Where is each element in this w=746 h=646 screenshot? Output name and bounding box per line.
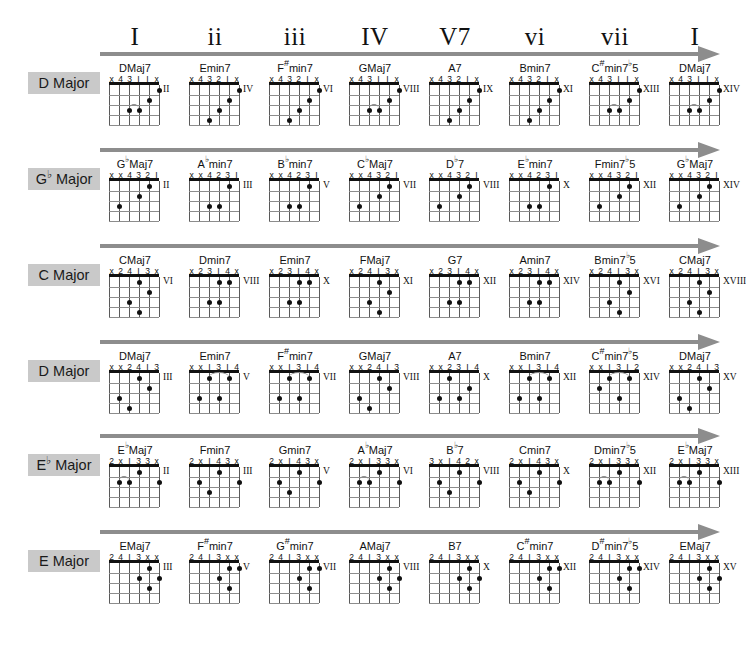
finger-dot	[547, 184, 552, 189]
chord-diagram[interactable]: F#min7xxI3I4VII	[255, 350, 335, 434]
nut-bar	[429, 370, 479, 373]
chord-diagram[interactable]: B♭73xI42xVIII	[415, 444, 495, 528]
fret-line	[589, 287, 639, 288]
chord-diagram[interactable]: Bmin7xxI3I4XII	[495, 350, 575, 434]
chord-diagram[interactable]: AMaj724I3xxVIII	[335, 540, 415, 624]
accidental-glyph: ♭	[454, 154, 458, 164]
chord-diagram[interactable]: DMaj7xx24I3III	[95, 350, 175, 434]
fret-line	[109, 297, 159, 298]
chord-diagram[interactable]: Emin7xxI3I4V	[175, 350, 255, 434]
chord-diagram[interactable]: Dmin7x23I4xVIII	[175, 254, 255, 338]
finger-dot	[707, 386, 712, 391]
fret-line	[349, 477, 399, 478]
chord-diagram[interactable]: A♭Maj72xI33xVI	[335, 444, 415, 528]
chord-diagram[interactable]: CMaj7x24I3xXVIII	[655, 254, 735, 338]
chord-diagram[interactable]: D♭7xx432IVIII	[415, 158, 495, 242]
finger-dot	[217, 396, 222, 401]
finger-dot	[447, 376, 452, 381]
finger-dot	[517, 396, 522, 401]
fret-line	[269, 477, 319, 478]
chord-diagram[interactable]: Dmin7♭52xI33xXII	[575, 444, 655, 528]
chord-diagram[interactable]: Fmin72xI43xIII	[175, 444, 255, 528]
chord-diagram[interactable]: GMaj7xx24I3VIII	[335, 350, 415, 434]
fret-line	[189, 201, 239, 202]
finger-dot	[557, 480, 562, 485]
chord-name: CMaj7	[655, 254, 735, 266]
fretboard-grid	[109, 277, 159, 317]
chord-diagram[interactable]: G7x23I4xXII	[415, 254, 495, 338]
fret-line	[349, 95, 399, 96]
chord-diagram[interactable]: G♭Maj7xx432III	[95, 158, 175, 242]
chord-diagram[interactable]: Gmin72xI43xV	[255, 444, 335, 528]
chord-diagram[interactable]: A7x432IxIX	[415, 62, 495, 146]
key-label: D Major	[28, 72, 100, 94]
string-line	[319, 467, 320, 507]
finger-dot	[717, 480, 722, 485]
chord-diagram[interactable]: DMaj7x43IIxXIV	[655, 62, 735, 146]
chord-diagram[interactable]: Cmin72xI43xX	[495, 444, 575, 528]
chord-diagram[interactable]: Bmin7♭5x24I3xXVI	[575, 254, 655, 338]
chord-diagram[interactable]: B♭min7xx423IV	[255, 158, 335, 242]
chord-diagram[interactable]: F#min7x432IxVI	[255, 62, 335, 146]
finger-dot	[137, 194, 142, 199]
chord-diagram[interactable]: DMaj7xx24I3XV	[655, 350, 735, 434]
chord-diagram[interactable]: CMaj7x24I3xVI	[95, 254, 175, 338]
finger-dot	[297, 108, 302, 113]
accidental-glyph: #	[599, 346, 604, 356]
degree-label-1: I	[95, 22, 175, 52]
fret-line	[349, 413, 399, 414]
chord-name: E♭min7	[495, 158, 575, 170]
chord-diagram[interactable]: FMaj7x24I3xXI	[335, 254, 415, 338]
nut-bar	[269, 464, 319, 467]
fret-line	[509, 507, 559, 508]
finger-dot	[457, 470, 462, 475]
fret-line	[269, 413, 319, 414]
fret-line	[109, 603, 159, 604]
nut-bar	[349, 560, 399, 563]
fret-line	[589, 507, 639, 508]
finger-dot	[217, 108, 222, 113]
chord-diagram[interactable]: GMaj7x43IIxVIII	[335, 62, 415, 146]
chord-diagram[interactable]: E♭min7xx423IX	[495, 158, 575, 242]
nut-bar	[349, 82, 399, 85]
chord-diagram[interactable]: F#min724I3xxV	[175, 540, 255, 624]
chord-diagram[interactable]: E♭Maj72xI33xII	[95, 444, 175, 528]
chord-diagram[interactable]: Emin7x432IxIV	[175, 62, 255, 146]
chord-diagram[interactable]: D#min7♭524I3xxXIV	[575, 540, 655, 624]
fretboard-grid	[269, 373, 319, 413]
fret-line	[669, 297, 719, 298]
chord-diagram[interactable]: A♭min7xx423IIII	[175, 158, 255, 242]
fret-line	[589, 487, 639, 488]
nut-bar	[189, 178, 239, 181]
finger-dot	[447, 490, 452, 495]
chord-diagram[interactable]: C♭Maj7xx432IVII	[335, 158, 415, 242]
accidental-glyph: #	[284, 346, 289, 356]
chord-diagram[interactable]: G♭Maj7xx432IXIV	[655, 158, 735, 242]
finger-dot	[217, 300, 222, 305]
chord-name: GMaj7	[335, 350, 415, 362]
fret-line	[589, 211, 639, 212]
chord-diagram[interactable]: C#min7♭5x43IIxXIII	[575, 62, 655, 146]
chord-diagram[interactable]: EMaj724I3xxIII	[95, 540, 175, 624]
chord-diagram[interactable]: B724I3xxX	[415, 540, 495, 624]
chord-diagram[interactable]: C#min7♭5xxI3I2XIV	[575, 350, 655, 434]
chord-diagram[interactable]: Fmin7♭5xx432IXII	[575, 158, 655, 242]
fret-line	[349, 583, 399, 584]
chord-diagram[interactable]: Bmin7x432IxXI	[495, 62, 575, 146]
chord-name: DMaj7	[95, 350, 175, 362]
fret-line	[269, 115, 319, 116]
nut-bar	[509, 560, 559, 563]
chord-diagram[interactable]: Emin7x23I4xX	[255, 254, 335, 338]
chord-diagram[interactable]: C#min724I3xxXII	[495, 540, 575, 624]
fret-line	[269, 307, 319, 308]
chord-diagram[interactable]: DMaj7x43IIxII	[95, 62, 175, 146]
fret-line	[509, 307, 559, 308]
chord-diagram[interactable]: Amin7x23I4xXIV	[495, 254, 575, 338]
chord-diagram[interactable]: EMaj724I3xxXV	[655, 540, 735, 624]
string-line	[399, 277, 400, 317]
chord-diagram[interactable]: G#min724I3xxVII	[255, 540, 335, 624]
chord-diagram[interactable]: A7xx23I4X	[415, 350, 495, 434]
chord-name: EMaj7	[655, 540, 735, 552]
finger-dot	[707, 290, 712, 295]
chord-diagram[interactable]: E♭Maj72xI33xXIII	[655, 444, 735, 528]
